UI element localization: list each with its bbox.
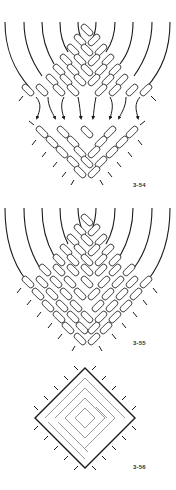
redirect-arrows — [36, 97, 140, 118]
figure-label-3-54: 3-54 — [133, 182, 146, 188]
outer-diamond — [35, 368, 135, 468]
figure-label-3-55: 3-55 — [133, 340, 146, 346]
upper-cord-ends — [19, 96, 156, 101]
diamond-knot-grid — [21, 213, 153, 346]
upper-knot-grid — [21, 23, 153, 97]
figure-label-3-56: 3-56 — [133, 464, 146, 470]
figure-3-54 — [5, 22, 170, 185]
figure-3-56 — [34, 366, 136, 470]
macrame-diagram-canvas — [0, 0, 176, 490]
figure-3-55 — [5, 208, 170, 351]
lower-knot-grid — [35, 125, 139, 179]
